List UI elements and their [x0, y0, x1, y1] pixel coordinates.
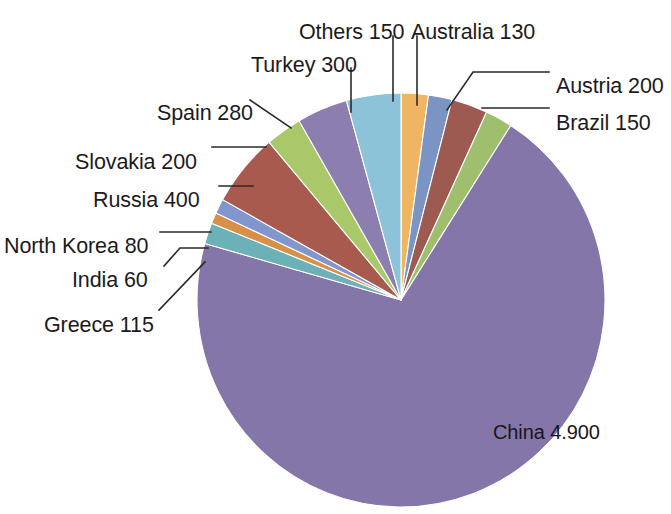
slice-label-spain: Spain 280: [157, 101, 253, 125]
slice-label-north-korea: North Korea 80: [4, 234, 149, 258]
slice-label-india: India 60: [72, 268, 148, 292]
slice-label-brazil: Brazil 150: [556, 111, 651, 135]
slice-label-austria: Austria 200: [556, 74, 664, 98]
slice-label-turkey: Turkey 300: [251, 53, 357, 77]
pie-chart-svg: China 4.900Australia 130Austria 200Brazi…: [0, 0, 671, 514]
slice-label-russia: Russia 400: [93, 188, 200, 212]
slice-label-others: Others 150: [299, 20, 405, 44]
slice-label-australia: Australia 130: [411, 20, 535, 44]
slice-label-greece: Greece 115: [44, 313, 154, 337]
pie-slices: [197, 93, 605, 507]
leader-line-spain: [250, 100, 291, 128]
pie-chart-figure: China 4.900Australia 130Austria 200Brazi…: [0, 0, 671, 514]
slice-label-china: China 4.900: [493, 421, 600, 443]
slice-label-slovakia: Slovakia 200: [75, 150, 197, 174]
